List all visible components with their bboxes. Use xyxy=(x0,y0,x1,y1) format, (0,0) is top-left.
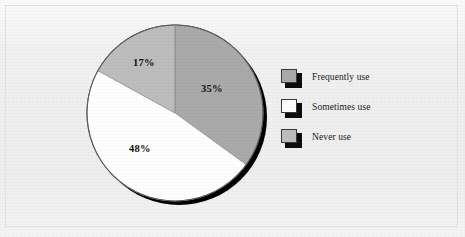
legend-item-never-use[interactable]: Never use xyxy=(281,129,431,151)
legend-swatch-never-use xyxy=(281,129,303,149)
chart-plot-area: 35% 48% 17% Frequently use Sometimes use xyxy=(0,0,465,237)
legend-swatch-sometimes-use xyxy=(281,99,303,119)
legend-label-never-use: Never use xyxy=(312,132,351,142)
slice-value-never-use: 17% xyxy=(133,57,155,68)
legend-label-sometimes-use: Sometimes use xyxy=(312,102,371,112)
legend-swatch-frequently-use xyxy=(281,69,303,89)
pie-chart-figure: 35% 48% 17% Frequently use Sometimes use xyxy=(0,0,465,237)
slice-value-frequently-use: 35% xyxy=(201,83,223,94)
legend-swatch-fill xyxy=(281,129,297,143)
legend-item-sometimes-use[interactable]: Sometimes use xyxy=(281,99,431,121)
legend-item-frequently-use[interactable]: Frequently use xyxy=(281,69,431,91)
chart-legend: Frequently use Sometimes use Never use xyxy=(281,69,431,159)
legend-label-frequently-use: Frequently use xyxy=(312,72,370,82)
legend-swatch-fill xyxy=(281,99,297,113)
slice-value-sometimes-use: 48% xyxy=(129,143,151,154)
legend-swatch-fill xyxy=(281,69,297,83)
pie-body xyxy=(87,25,263,201)
